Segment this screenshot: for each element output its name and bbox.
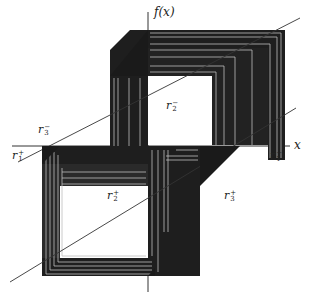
label-r1-plus: r+1 bbox=[12, 150, 24, 163]
label-r3-minus: r−3 bbox=[38, 124, 50, 137]
label-r2-minus: r−2 bbox=[166, 100, 178, 113]
label-r3-plus: r+3 bbox=[224, 190, 236, 203]
y-axis-label: f(x) bbox=[154, 6, 175, 18]
label-r1-minus: r−1 bbox=[270, 150, 282, 163]
right-diagonal-shade bbox=[200, 146, 240, 186]
cobweb-diagram bbox=[0, 0, 312, 292]
label-r2-plus: r+2 bbox=[107, 190, 119, 203]
x-axis-label: x bbox=[294, 139, 301, 151]
lower-orbit-band bbox=[42, 146, 200, 276]
